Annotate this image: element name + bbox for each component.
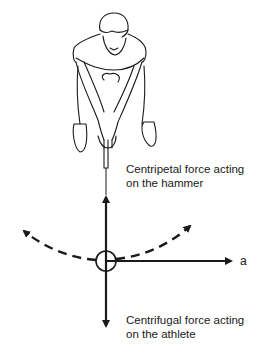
- centrifugal-label-line1: Centrifugal force acting: [126, 313, 244, 327]
- centripetal-force-label: Centripetal force acting on the hammer: [126, 162, 244, 190]
- centripetal-label-line2: on the hammer: [126, 176, 244, 190]
- hammer-trajectory-arc: [24, 231, 96, 260]
- athlete-figure: [73, 13, 156, 168]
- centrifugal-label-line2: on the athlete: [126, 327, 244, 341]
- axis-a-label: a: [240, 254, 247, 268]
- centripetal-label-line1: Centripetal force acting: [126, 162, 244, 176]
- centrifugal-force-label: Centrifugal force acting on the athlete: [126, 313, 244, 341]
- hammer-trajectory-arc-right: [116, 226, 190, 259]
